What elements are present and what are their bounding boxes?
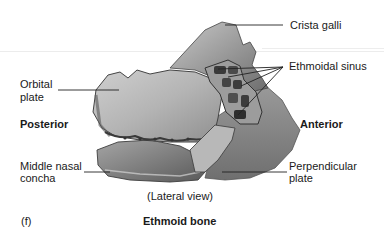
orbital-plate-shape	[93, 70, 222, 142]
figure-panel-letter: (f)	[21, 215, 31, 228]
label-ethmoidal-sinus: Ethmoidal sinus	[289, 60, 367, 73]
middle-nasal-concha-shape	[97, 140, 205, 182]
label-orbital-plate-line1: Orbital	[20, 78, 52, 91]
figure-view-caption: (Lateral view)	[147, 190, 213, 203]
label-posterior: Posterior	[20, 118, 68, 131]
label-orbital-plate-line2: plate	[20, 91, 44, 104]
label-anterior: Anterior	[300, 118, 343, 131]
label-middle-nasal-concha-line2: concha	[20, 172, 55, 185]
label-crista-galli: Crista galli	[290, 19, 341, 32]
figure-title: Ethmoid bone	[143, 215, 216, 228]
label-perpendicular-plate-line2: plate	[289, 172, 313, 185]
